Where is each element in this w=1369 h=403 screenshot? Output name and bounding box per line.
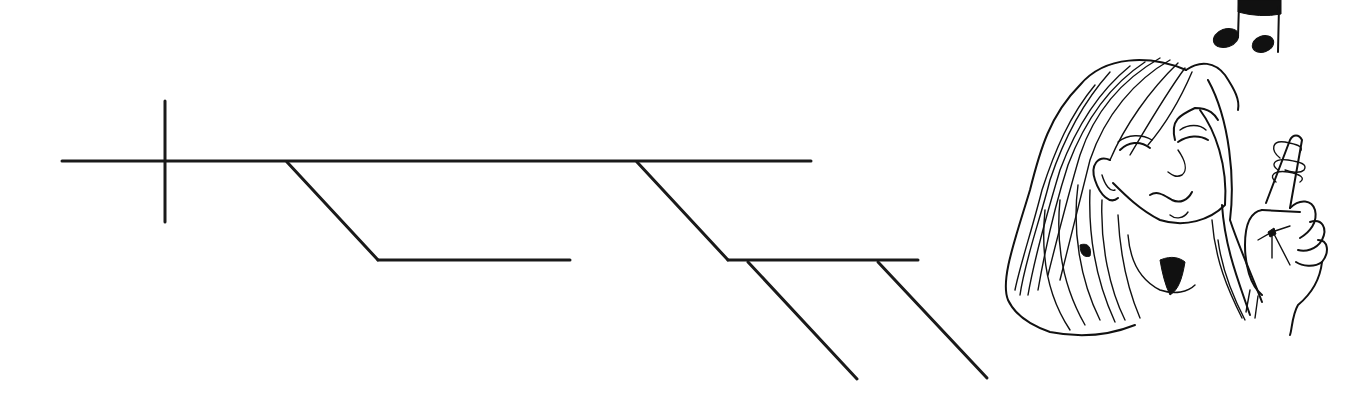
hair [1006, 58, 1262, 335]
phrase-modifier-1-line [748, 262, 857, 379]
phrase-slant-line [637, 162, 728, 260]
face [1093, 108, 1225, 292]
diagram-canvas [0, 0, 1369, 403]
modifier-1-slant-line [287, 162, 378, 260]
sentence-diagram [62, 101, 987, 379]
hand-with-reminder-string [1245, 136, 1327, 336]
woman-illustration [1006, 0, 1327, 335]
music-notes-icon [1211, 0, 1281, 55]
phrase-modifier-2-line [878, 262, 987, 378]
